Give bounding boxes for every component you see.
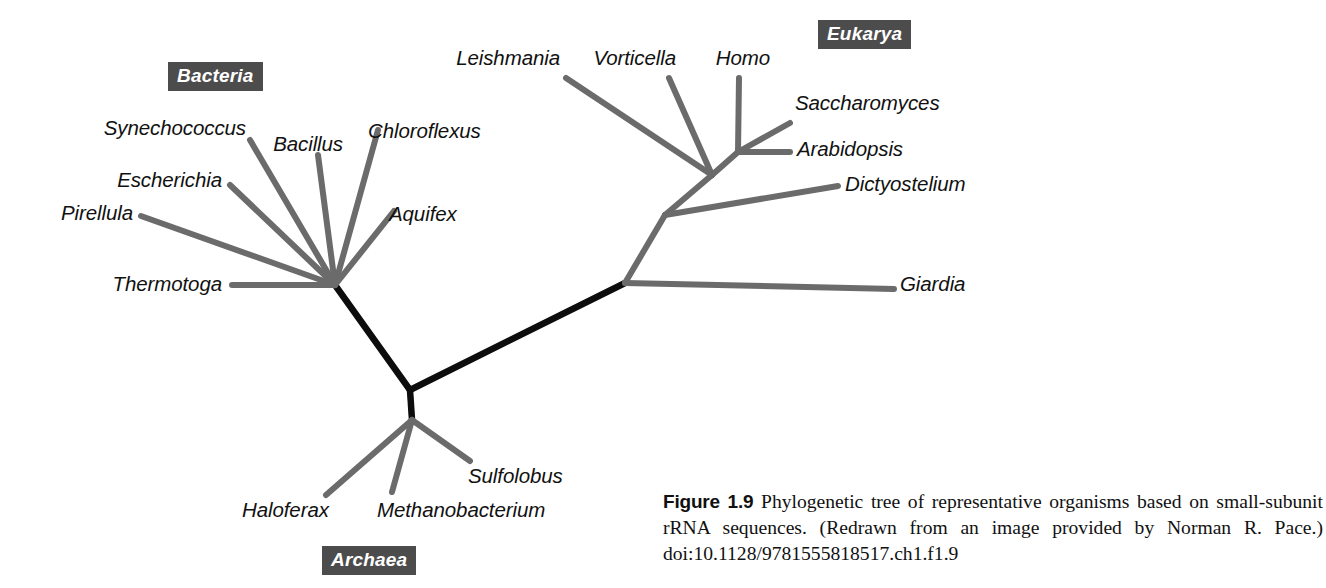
taxon-label-escherichia: Escherichia <box>117 170 222 191</box>
taxon-label-chloroflexus: Chloroflexus <box>368 121 481 142</box>
taxon-label-sulfolobus: Sulfolobus <box>468 466 563 487</box>
taxon-label-synechococcus: Synechococcus <box>104 118 246 139</box>
trunk-branch-archaea-node <box>410 390 412 420</box>
branch-sulfolobus <box>412 420 470 461</box>
figure-caption: Figure 1.9 Phylogenetic tree of represen… <box>663 489 1323 567</box>
internal-branch-eukarya-mid <box>625 215 665 283</box>
taxon-label-aquifex: Aquifex <box>389 204 457 225</box>
taxon-label-arabidopsis: Arabidopsis <box>797 139 903 160</box>
branch-homo <box>738 78 739 152</box>
taxon-label-homo: Homo <box>716 48 770 69</box>
domain-badge-bacteria: Bacteria <box>168 62 263 91</box>
caption-doi: doi:10.1128/9781555818517.ch1.f1.9 <box>663 543 958 564</box>
taxon-label-vorticella: Vorticella <box>593 48 676 69</box>
trunk-branch-eukarya-base <box>410 283 625 390</box>
taxon-label-saccharomyces: Saccharomyces <box>795 93 940 114</box>
internal-branch-eukarya-crown <box>712 152 738 175</box>
caption-body <box>753 491 761 512</box>
branch-giardia <box>625 283 894 289</box>
trunk-branch-group <box>335 283 625 420</box>
figure-container: ThermotogaPirellulaEscherichiaSynechococ… <box>0 0 1326 588</box>
taxon-label-leishmania: Leishmania <box>456 48 560 69</box>
figure-number: Figure 1.9 <box>663 491 753 512</box>
domain-badge-eukarya: Eukarya <box>818 20 911 49</box>
taxon-label-methanobacterium: Methanobacterium <box>377 500 545 521</box>
taxon-label-haloferax: Haloferax <box>242 500 329 521</box>
caption-text: Phylogenetic tree of representative orga… <box>663 491 1323 538</box>
taxon-label-bacillus: Bacillus <box>273 134 343 155</box>
domain-badge-archaea: Archaea <box>322 546 416 575</box>
trunk-branch-bacteria-node <box>335 285 410 390</box>
taxon-label-thermotoga: Thermotoga <box>112 274 222 295</box>
tip-branch-group <box>141 78 894 495</box>
taxon-label-pirellula: Pirellula <box>61 203 133 224</box>
taxon-label-giardia: Giardia <box>900 274 965 295</box>
taxon-label-dictyostelium: Dictyostelium <box>845 174 966 195</box>
branch-saccharomyces <box>738 123 790 152</box>
